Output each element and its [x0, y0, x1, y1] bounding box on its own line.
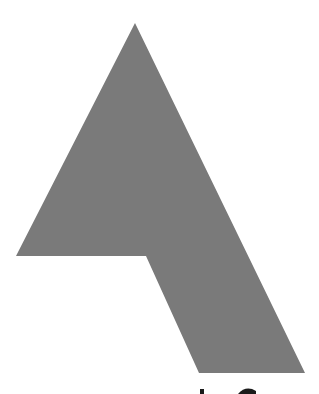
- partial-glyph-mark: [200, 389, 204, 394]
- logo-graphic: [0, 0, 319, 394]
